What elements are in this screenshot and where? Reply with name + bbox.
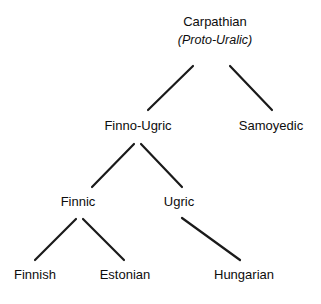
node-carpathian-label: Carpathian (178, 14, 252, 30)
node-finno-ugric-label: Finno-Ugric (104, 118, 171, 134)
node-finnish: Finnish (14, 267, 56, 283)
node-estonian-label: Estonian (100, 267, 151, 283)
tree-edge-carpathian-samoyedic (230, 66, 272, 110)
tree-edge-ugric-hungarian (182, 218, 240, 260)
tree-edge-finnic-estonian (83, 219, 124, 260)
language-family-tree-diagram: Carpathian (Proto-Uralic) Finno-Ugric Sa… (0, 0, 321, 304)
node-hungarian: Hungarian (214, 267, 274, 283)
node-finnish-label: Finnish (14, 267, 56, 283)
tree-edge-layer (0, 0, 321, 304)
tree-edge-finnic-finnish (35, 219, 76, 260)
node-hungarian-label: Hungarian (214, 267, 274, 283)
tree-edge-finno-ugric-ugric (141, 144, 182, 187)
node-samoyedic-label: Samoyedic (239, 118, 303, 134)
node-carpathian-subtitle: (Proto-Uralic) (178, 32, 252, 48)
node-carpathian: Carpathian (Proto-Uralic) (178, 14, 252, 48)
tree-edge-carpathian-finno-ugric (148, 66, 193, 110)
node-finnic-label: Finnic (61, 194, 96, 210)
tree-edge-finno-ugric-finnic (92, 144, 134, 187)
node-samoyedic: Samoyedic (239, 118, 303, 134)
node-finno-ugric: Finno-Ugric (104, 118, 171, 134)
node-estonian: Estonian (100, 267, 151, 283)
node-ugric-label: Ugric (164, 194, 194, 210)
node-finnic: Finnic (61, 194, 96, 210)
node-ugric: Ugric (164, 194, 194, 210)
